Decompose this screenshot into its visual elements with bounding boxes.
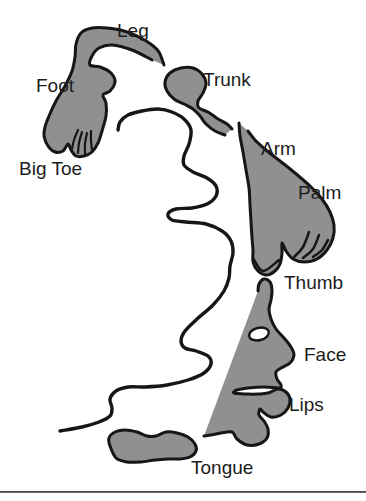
homunculus-figure: Leg Foot Big Toe Trunk Arm Palm Thumb Fa… — [0, 0, 366, 501]
label-thumb: Thumb — [284, 273, 343, 293]
face-lips-region-fill — [204, 279, 294, 445]
label-trunk: Trunk — [203, 70, 251, 90]
label-big-toe: Big Toe — [19, 159, 82, 179]
tongue-region — [109, 430, 197, 462]
label-arm: Arm — [261, 139, 296, 159]
toe-line-4 — [91, 131, 92, 150]
label-palm: Palm — [298, 183, 341, 203]
label-foot: Foot — [36, 76, 74, 96]
label-lips: Lips — [289, 395, 324, 415]
label-leg: Leg — [117, 21, 149, 41]
label-face: Face — [304, 345, 346, 365]
cortex-outline-curve — [60, 109, 233, 431]
figure-bottom-rule — [0, 491, 366, 493]
label-tongue: Tongue — [191, 458, 253, 478]
